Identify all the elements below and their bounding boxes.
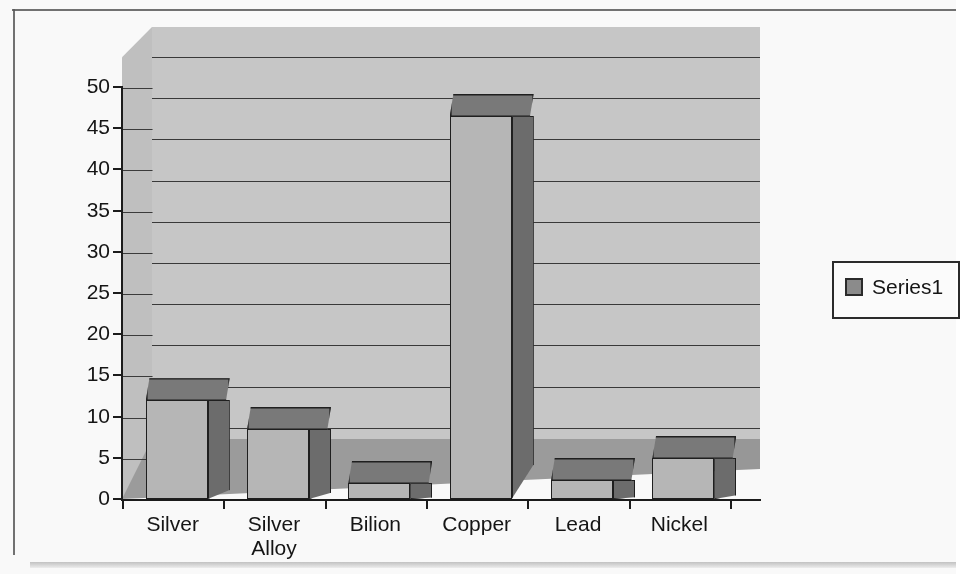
bar-front-face xyxy=(551,480,613,499)
bar-top-outline xyxy=(652,436,736,459)
bar-top-outline xyxy=(348,461,432,484)
bar-silver[interactable] xyxy=(146,400,208,499)
bar-bilion[interactable] xyxy=(348,483,410,499)
x-tick-0 xyxy=(122,500,124,509)
bar-side-face xyxy=(208,400,230,499)
bar-silver-alloy[interactable] xyxy=(247,429,309,499)
bar-side-face xyxy=(714,458,736,499)
y-tick-label-15: 15 xyxy=(58,363,110,384)
x-tick-label-line: Bilion xyxy=(325,512,426,536)
x-tick-5 xyxy=(629,500,631,509)
x-tick-label-line: Alloy xyxy=(223,536,324,560)
x-tick-label-nickel: Nickel xyxy=(629,512,730,536)
bar-side-face xyxy=(512,116,534,499)
x-tick-label-silver: Silver xyxy=(122,512,223,536)
bar-top-outline xyxy=(450,94,534,117)
y-tick-50 xyxy=(113,86,123,88)
y-tick-label-5: 5 xyxy=(58,446,110,467)
x-tick-label-line: Silver xyxy=(122,512,223,536)
x-tick-1 xyxy=(223,500,225,509)
x-tick-6 xyxy=(730,500,732,509)
y-tick-label-45: 45 xyxy=(58,116,110,137)
y-tick-label-35: 35 xyxy=(58,199,110,220)
y-tick-40 xyxy=(113,168,123,170)
bar-front-face xyxy=(450,116,512,499)
x-tick-label-line: Silver xyxy=(223,512,324,536)
y-tick-label-50: 50 xyxy=(58,75,110,96)
x-axis-tick-labels: SilverSilverAlloyBilionCopperLeadNickel xyxy=(0,512,956,574)
y-tick-10 xyxy=(113,416,123,418)
y-tick-label-30: 30 xyxy=(58,240,110,261)
y-tick-20 xyxy=(113,333,123,335)
bar-side-face xyxy=(410,483,432,499)
bar-front-face xyxy=(348,483,410,499)
bar-front-face xyxy=(652,458,714,499)
x-tick-label-copper: Copper xyxy=(426,512,527,536)
bar-side-face xyxy=(309,429,331,499)
x-tick-label-line: Copper xyxy=(426,512,527,536)
y-tick-15 xyxy=(113,374,123,376)
bar-copper[interactable] xyxy=(450,116,512,499)
y-tick-5 xyxy=(113,457,123,459)
bar-side-face xyxy=(613,480,635,499)
bar-lead[interactable] xyxy=(551,480,613,499)
y-axis-tick-labels: 05101520253035404550 xyxy=(44,0,110,574)
bar-front-face xyxy=(146,400,208,499)
legend-entry-series1[interactable]: Series1 xyxy=(845,276,943,297)
y-tick-label-25: 25 xyxy=(58,281,110,302)
x-tick-3 xyxy=(426,500,428,509)
x-tick-label-line: Lead xyxy=(527,512,628,536)
x-axis-line xyxy=(121,499,761,501)
x-tick-label-lead: Lead xyxy=(527,512,628,536)
y-tick-label-0: 0 xyxy=(58,487,110,508)
x-tick-2 xyxy=(325,500,327,509)
x-tick-label-line: Nickel xyxy=(629,512,730,536)
y-tick-25 xyxy=(113,292,123,294)
y-tick-45 xyxy=(113,127,123,129)
y-tick-label-10: 10 xyxy=(58,405,110,426)
bar-top-outline xyxy=(551,458,635,481)
x-tick-label-silver-alloy: SilverAlloy xyxy=(223,512,324,560)
gridline-50 xyxy=(152,57,760,58)
bar-top-outline xyxy=(247,407,331,430)
y-tick-30 xyxy=(113,251,123,253)
bar-front-face xyxy=(247,429,309,499)
bar-top-outline xyxy=(146,378,230,401)
y-tick-label-40: 40 xyxy=(58,157,110,178)
bar-nickel[interactable] xyxy=(652,458,714,499)
chart-legend[interactable]: Series1 xyxy=(832,261,960,319)
legend-swatch-icon xyxy=(845,278,863,296)
y-tick-label-20: 20 xyxy=(58,322,110,343)
x-tick-label-bilion: Bilion xyxy=(325,512,426,536)
x-tick-4 xyxy=(527,500,529,509)
legend-entry-label: Series1 xyxy=(872,276,943,297)
y-tick-35 xyxy=(113,210,123,212)
